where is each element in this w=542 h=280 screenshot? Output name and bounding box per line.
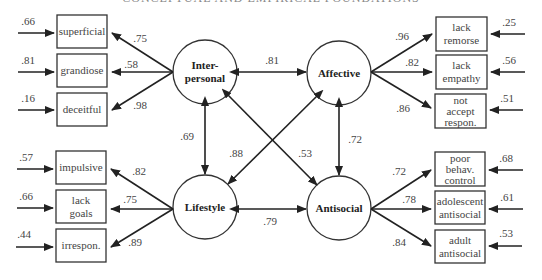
error-label: .16 xyxy=(21,92,35,104)
indicator-label: antisocial xyxy=(439,247,481,259)
corr-label: .81 xyxy=(265,54,279,66)
loading-label: .78 xyxy=(402,193,416,205)
latent-label: Inter- xyxy=(191,59,218,71)
latent-lifestyle: Lifestyle xyxy=(173,175,237,239)
indicator-label: deceitful xyxy=(63,103,101,115)
indicator-label: adult xyxy=(449,234,471,246)
corr-label: .72 xyxy=(348,133,362,145)
indicator-lack-empathy: lack empathy .56 .82 xyxy=(371,54,525,89)
corr-label: .69 xyxy=(180,130,194,142)
error-label: .51 xyxy=(500,92,514,104)
indicator-label: empathy xyxy=(443,72,481,84)
error-label: .61 xyxy=(500,191,514,203)
loading-label: .82 xyxy=(132,165,146,177)
indicator-label: grandiose xyxy=(61,64,104,76)
indicator-label: irrespon. xyxy=(62,239,101,251)
latent-affective: Affective xyxy=(307,41,371,105)
latent-label: Lifestyle xyxy=(185,201,225,213)
error-label: .66 xyxy=(19,190,33,202)
loading-label: .86 xyxy=(396,102,410,114)
indicator-label: impulsive xyxy=(59,161,103,173)
latent-label: Affective xyxy=(318,67,360,79)
loading-label: .75 xyxy=(133,32,147,44)
error-label: .56 xyxy=(502,54,516,66)
indicator-adolescent-antisocial: adolescent antisocial .61 .78 xyxy=(371,191,523,224)
indicator-label: lack xyxy=(452,59,471,71)
indicator-label: lack xyxy=(72,194,91,206)
indicator-lack-goals: lack goals .66 .75 xyxy=(17,190,173,223)
corr-label: .88 xyxy=(229,147,243,159)
loading-label: .89 xyxy=(128,236,142,248)
loading-label: .84 xyxy=(392,236,406,248)
error-label: .81 xyxy=(21,54,35,66)
latent-label: Antisocial xyxy=(315,202,362,214)
error-label: .44 xyxy=(17,228,31,240)
corr-label: .53 xyxy=(298,147,312,159)
indicator-label: remorse xyxy=(444,34,480,46)
loading-label: .58 xyxy=(124,58,138,70)
latent-interpersonal: Inter- personal xyxy=(173,40,237,104)
error-label: .25 xyxy=(502,16,516,28)
indicator-label: respon. xyxy=(444,116,476,128)
indicator-label: lack xyxy=(452,21,471,33)
indicator-label: antisocial xyxy=(439,208,481,220)
error-label: .53 xyxy=(499,227,513,239)
sem-path-diagram: Inter- personal Affective Lifestyle Anti… xyxy=(0,0,542,280)
loading-label: .75 xyxy=(123,193,137,205)
indicator-label: adolescent xyxy=(437,195,483,207)
loading-label: .72 xyxy=(392,165,406,177)
indicator-label: goals xyxy=(69,207,92,219)
loading-label: .98 xyxy=(133,99,147,111)
corr-label: .79 xyxy=(263,215,277,227)
error-label: .68 xyxy=(499,152,513,164)
error-label: .57 xyxy=(19,151,33,163)
indicator-label: superficial xyxy=(59,25,105,37)
loading-label: .96 xyxy=(395,30,409,42)
loading-arrow xyxy=(111,209,173,247)
latent-label: personal xyxy=(185,72,225,84)
error-label: .66 xyxy=(21,15,35,27)
indicator-grandiose: grandiose .81 .58 xyxy=(18,54,173,87)
indicator-label: control xyxy=(444,174,475,186)
loading-label: .82 xyxy=(405,56,419,68)
latent-antisocial: Antisocial xyxy=(307,176,371,240)
